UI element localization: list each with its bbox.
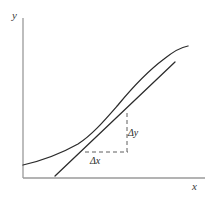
x-axis-label: x	[192, 181, 197, 192]
function-curve	[23, 46, 188, 165]
y-axis-label: y	[12, 10, 17, 21]
figure-container: y x Δy Δx	[0, 0, 212, 199]
secant-line	[55, 62, 175, 176]
figure-canvas	[0, 0, 212, 199]
delta-x-label: Δx	[90, 156, 100, 166]
delta-y-label: Δy	[128, 128, 138, 138]
